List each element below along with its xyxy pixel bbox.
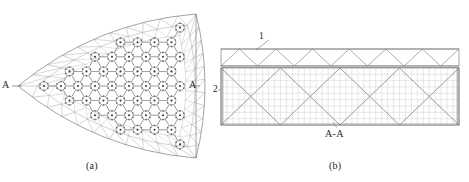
caption-panel-a: (a) [86,160,98,171]
panel-b-svg [212,0,469,182]
figure-root: A A (a) 1 2 A-A (b) [0,0,469,182]
section-title-aa: A-A [325,128,344,139]
panel-b-section-view: 1 2 A-A (b) [212,0,469,182]
section-marker-a-left: A [2,79,9,90]
caption-panel-b: (b) [329,160,341,171]
section-marker-a-right: A [189,79,196,90]
callout-label-2: 2 [213,84,218,94]
callout-label-1: 1 [259,31,264,41]
panel-a-svg [0,0,212,182]
panel-a-plan-view: A A (a) [0,0,212,182]
